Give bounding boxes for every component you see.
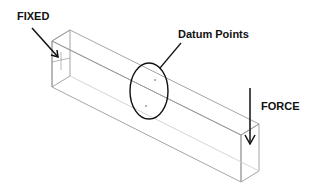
fixed-label: FIXED: [17, 10, 49, 22]
datum-leader-line: [160, 43, 181, 68]
datum-point-top: [154, 79, 156, 81]
force-label: FORCE: [261, 100, 300, 112]
fixed-end-axis-icon: [52, 52, 70, 70]
force-arrow-icon: [245, 88, 255, 144]
datum-points-label: Datum Points: [178, 28, 249, 40]
beam: [52, 30, 259, 182]
datum-points-ellipse: [130, 63, 168, 119]
beam-diagram: [0, 0, 319, 190]
datum-point-bottom: [145, 105, 147, 107]
